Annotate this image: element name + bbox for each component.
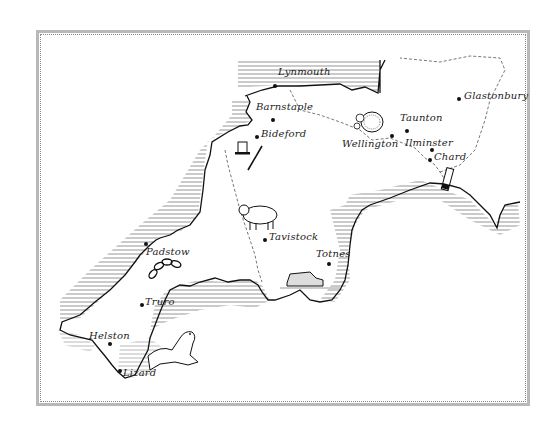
town-dot-lynmouth xyxy=(273,84,277,88)
town-label-ilminster: Ilminster xyxy=(405,137,453,148)
town-label-lynmouth: Lynmouth xyxy=(278,66,331,77)
town-dot-bideford xyxy=(255,135,259,139)
seal-icon xyxy=(148,332,198,370)
chain-icon xyxy=(147,259,181,280)
town-label-truro: Truro xyxy=(145,296,175,307)
map-canvas: Lynmouth Barnstaple Bideford Wellington … xyxy=(0,0,540,431)
town-dot-truro xyxy=(140,303,144,307)
town-label-taunton: Taunton xyxy=(400,112,443,123)
coastline-drawing xyxy=(0,0,540,431)
town-label-wellington: Wellington xyxy=(342,138,398,149)
top-hat-icon xyxy=(235,142,250,155)
town-label-bideford: Bideford xyxy=(261,128,306,139)
town-dot-glastonbury xyxy=(457,97,461,101)
town-label-glastonbury: Glastonbury xyxy=(464,90,528,101)
town-label-helston: Helston xyxy=(89,330,130,341)
town-label-barnstaple: Barnstaple xyxy=(256,101,313,112)
town-dot-lizard xyxy=(118,369,122,373)
cannon-icon xyxy=(441,168,453,191)
cider-apples-icon xyxy=(354,112,383,132)
quill-pen-icon xyxy=(248,146,262,170)
town-dot-barnstaple xyxy=(271,118,275,122)
town-dot-chard xyxy=(428,158,432,162)
town-dot-tavistock xyxy=(263,238,267,242)
town-dot-helston xyxy=(108,342,112,346)
town-dot-totnes xyxy=(327,262,331,266)
town-label-totnes: Totnes xyxy=(316,248,351,259)
town-dot-taunton xyxy=(405,129,409,133)
town-label-chard: Chard xyxy=(434,151,466,162)
town-label-tavistock: Tavistock xyxy=(269,231,318,242)
town-label-padstow: Padstow xyxy=(146,246,190,257)
town-label-lizard: Lizard xyxy=(123,367,156,378)
sheep-icon xyxy=(239,205,277,230)
